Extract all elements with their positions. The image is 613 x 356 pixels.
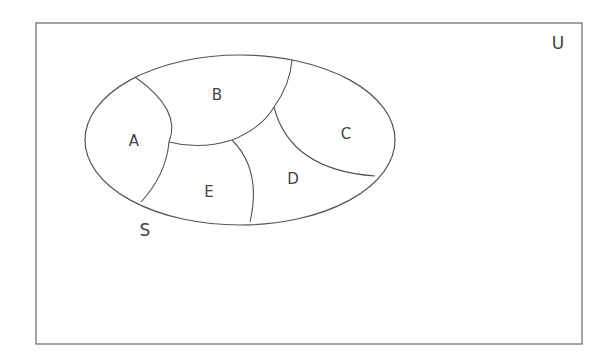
region-label-d: D xyxy=(287,170,299,188)
universe-rectangle xyxy=(36,23,582,344)
divider-b-lower xyxy=(169,60,292,146)
divider-e-d xyxy=(232,140,253,222)
region-label-c: C xyxy=(341,125,351,143)
region-label-a: A xyxy=(129,132,140,150)
divider-c-d xyxy=(274,107,375,176)
venn-diagram: A B C D E S U xyxy=(0,0,613,356)
region-label-e: E xyxy=(204,183,213,201)
divider-a xyxy=(135,77,172,202)
universe-label-u: U xyxy=(552,33,564,53)
region-label-b: B xyxy=(212,86,222,104)
set-label-s: S xyxy=(140,220,151,240)
